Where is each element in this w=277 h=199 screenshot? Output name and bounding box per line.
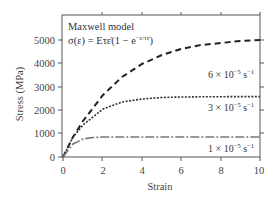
model-title: Maxwell model: [68, 21, 134, 32]
chart-canvas: 0 1000 2000 3000 4000 5000 0 2 4 6 8 10 …: [0, 0, 277, 199]
label-1e-5: 1 × 10−5 s−1: [208, 142, 254, 154]
y-axis-label: Stress (MPa): [14, 66, 26, 121]
x-tick-label: 8: [218, 165, 223, 176]
x-tick-label: 6: [178, 165, 183, 176]
y-tick-label: 3000: [34, 82, 55, 93]
y-tick-label: 1000: [34, 128, 55, 139]
x-tick-label: 10: [254, 165, 265, 176]
x-axis-label: Strain: [147, 181, 173, 192]
curve-6e-5: [63, 40, 260, 157]
x-ticks: [63, 157, 260, 161]
label-3e-5: 3 × 10−5 s−1: [208, 101, 254, 113]
x-tick-label: 0: [60, 165, 65, 176]
y-tick-label: 4000: [34, 58, 55, 69]
right-ticks: [260, 40, 264, 133]
y-tick-label: 0: [50, 152, 55, 163]
x-tick-label: 4: [139, 165, 145, 176]
y-ticks: [58, 40, 62, 157]
label-6e-5: 6 × 10−5 s−1: [208, 68, 254, 80]
x-tick-label: 2: [100, 165, 105, 176]
y-tick-label: 2000: [34, 105, 55, 116]
model-equation: σ(ε) = Eτε̇(1 − e−ε/τε̇): [68, 34, 153, 47]
y-tick-label: 5000: [34, 35, 55, 46]
